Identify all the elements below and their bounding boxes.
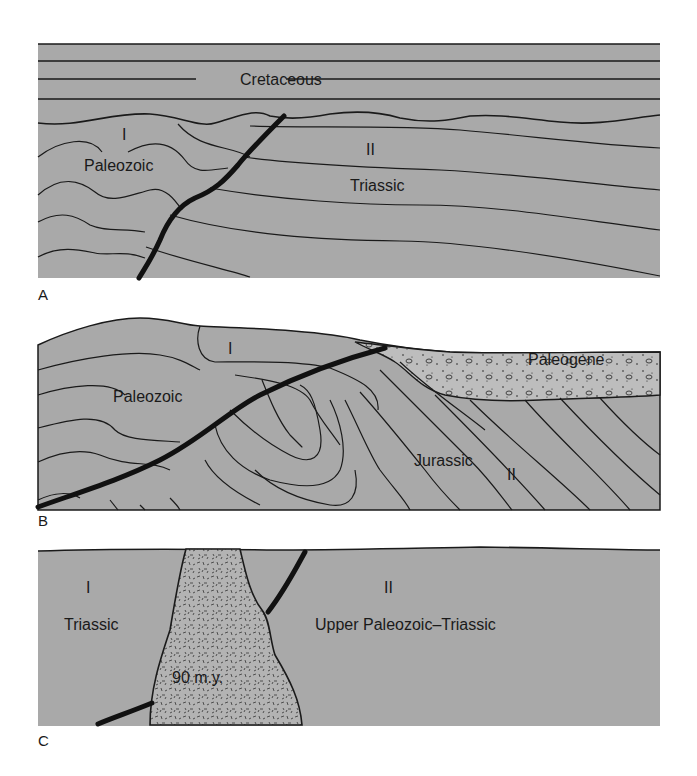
- label-pluton-age: 90 m.y.: [172, 669, 223, 686]
- panel-a: Cretaceous I Paleozoic II Triassic A: [38, 44, 660, 303]
- label-triassic-i: Triassic: [64, 616, 119, 633]
- label-paleogene: Paleogene: [528, 351, 605, 368]
- label-paleozoic: Paleozoic: [113, 388, 182, 405]
- panel-b-background: [38, 318, 660, 510]
- panel-c: I Triassic 90 m.y. II Upper Paleozoic–Tr…: [38, 547, 660, 749]
- label-block-ii: II: [507, 466, 516, 483]
- panel-c-background: [38, 547, 660, 726]
- panel-label-c: C: [38, 732, 49, 749]
- label-block-i: I: [122, 126, 126, 143]
- panel-label-a: A: [38, 286, 48, 303]
- label-block-ii: II: [384, 579, 393, 596]
- label-paleozoic: Paleozoic: [84, 157, 153, 174]
- label-block-i: I: [228, 340, 232, 357]
- label-upper-paleozoic-triassic: Upper Paleozoic–Triassic: [315, 616, 496, 633]
- label-cretaceous: Cretaceous: [240, 71, 322, 88]
- panel-label-b: B: [38, 512, 48, 529]
- label-triassic: Triassic: [350, 177, 405, 194]
- panel-b: I Paleozoic Paleogene Jurassic II B: [38, 318, 660, 529]
- label-jurassic: Jurassic: [414, 452, 473, 469]
- label-block-i: I: [86, 579, 90, 596]
- label-block-ii: II: [366, 141, 375, 158]
